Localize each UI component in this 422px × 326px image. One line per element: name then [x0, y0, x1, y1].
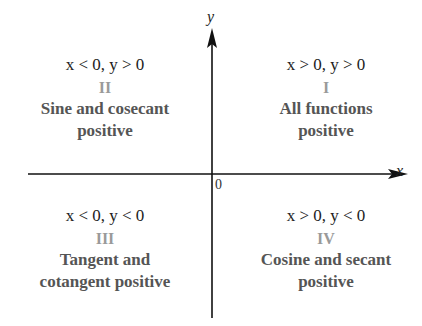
- quadrant-i: x > 0, y > 0 I All functions positive: [226, 55, 422, 142]
- y-axis-label: y: [207, 8, 214, 26]
- origin-label: 0: [215, 177, 222, 193]
- quadrant-iv: x > 0, y < 0 IV Cosine and secant positi…: [226, 206, 422, 293]
- quadrant-ii: x < 0, y > 0 II Sine and cosecant positi…: [5, 55, 205, 142]
- quadrant-description-line1: All functions: [226, 98, 422, 120]
- quadrant-description-line1: Sine and cosecant: [5, 98, 205, 120]
- quadrant-numeral: IV: [226, 229, 422, 249]
- quadrant-description-line1: Cosine and secant: [226, 249, 422, 271]
- quadrant-iii: x < 0, y < 0 III Tangent and cotangent p…: [5, 206, 205, 293]
- quadrant-numeral: I: [226, 78, 422, 98]
- quadrant-description-line2: positive: [226, 120, 422, 142]
- quadrant-description-line2: cotangent positive: [5, 271, 205, 293]
- quadrant-condition: x > 0, y > 0: [226, 55, 422, 75]
- quadrant-description-line1: Tangent and: [5, 249, 205, 271]
- x-axis-label: x: [396, 162, 403, 180]
- quadrant-numeral: III: [5, 229, 205, 249]
- quadrant-description-line2: positive: [5, 120, 205, 142]
- quadrant-numeral: II: [5, 78, 205, 98]
- quadrant-condition: x < 0, y < 0: [5, 206, 205, 226]
- quadrant-condition: x < 0, y > 0: [5, 55, 205, 75]
- quadrant-condition: x > 0, y < 0: [226, 206, 422, 226]
- quadrant-description-line2: positive: [226, 271, 422, 293]
